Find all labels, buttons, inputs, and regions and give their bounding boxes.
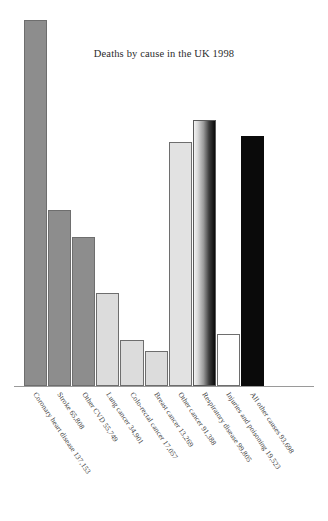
- bar: [217, 334, 240, 386]
- bar: [48, 210, 71, 386]
- bar: [241, 136, 264, 386]
- bar: [169, 142, 192, 386]
- bar: [145, 351, 168, 386]
- bar: [72, 237, 95, 386]
- plot-area: [0, 0, 328, 390]
- bar: [24, 20, 47, 386]
- bars-layer: [0, 0, 328, 386]
- bar: [193, 120, 216, 386]
- category-labels-layer: Coronary heart disease 137,153Stroke 65,…: [0, 386, 328, 521]
- bar-chart-figure: Deaths by cause in the UK 1998 Coronary …: [0, 0, 328, 521]
- bar: [96, 293, 119, 386]
- category-label: All other causes 93,698: [249, 391, 296, 455]
- bar: [120, 340, 143, 386]
